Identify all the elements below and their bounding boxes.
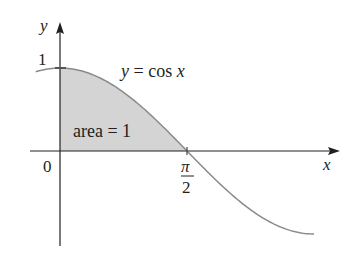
origin-label: 0 xyxy=(43,157,52,176)
y-tick-label-1: 1 xyxy=(38,50,47,69)
function-label: y = cos x xyxy=(119,61,185,81)
area-label: area = 1 xyxy=(73,121,131,141)
pi-label: π xyxy=(181,157,190,176)
y-axis-label: y xyxy=(38,16,48,35)
function-label-y: y xyxy=(119,61,129,81)
two-label: 2 xyxy=(182,178,191,197)
x-axis-label: x xyxy=(322,155,331,174)
function-label-eq: = cos xyxy=(129,61,177,81)
chart-svg: y x 1 0 π 2 y = cos x area = 1 xyxy=(0,0,363,262)
cosine-area-chart: y x 1 0 π 2 y = cos x area = 1 xyxy=(0,0,363,262)
function-label-x: x xyxy=(176,61,185,81)
